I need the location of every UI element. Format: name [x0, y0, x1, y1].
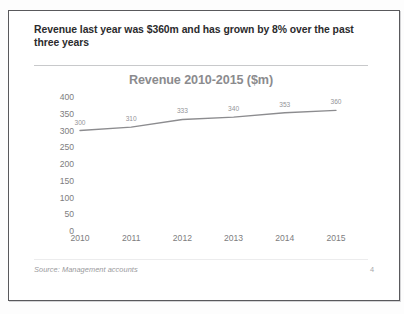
chart-plot-area: 400350300250200150100500 300310333340353… [34, 97, 368, 231]
x-axis-tick: 2010 [57, 233, 103, 243]
data-point-label: 333 [177, 107, 188, 115]
headline-block: Revenue last year was $360m and has grow… [34, 23, 368, 49]
series-line-revenue [80, 110, 336, 130]
chart-x-axis: 201020112012201320142015 [34, 233, 368, 247]
x-axis-tick: 2011 [108, 233, 154, 243]
revenue-line-chart: Revenue 2010-2015 ($m) 40035030025020015… [34, 69, 368, 255]
data-point-label: 340 [228, 105, 239, 113]
x-axis-tick: 2012 [159, 233, 205, 243]
chart-series-svg [34, 97, 368, 231]
x-axis-tick: 2015 [313, 233, 359, 243]
chart-title: Revenue 2010-2015 ($m) [34, 73, 368, 87]
footer-source-note: Source: Management accounts [34, 265, 138, 274]
data-point-label: 353 [279, 101, 290, 109]
data-point-label: 310 [126, 115, 137, 123]
slide-frame: Revenue last year was $360m and has grow… [8, 10, 400, 301]
x-axis-tick: 2013 [211, 233, 257, 243]
page-title: Revenue last year was $360m and has grow… [34, 23, 368, 49]
data-point-label: 300 [74, 119, 85, 127]
headline-divider [34, 65, 368, 66]
x-axis-tick: 2014 [262, 233, 308, 243]
slide-page-number: 4 [370, 265, 374, 274]
footer-divider [34, 259, 368, 260]
data-point-label: 360 [330, 98, 341, 106]
